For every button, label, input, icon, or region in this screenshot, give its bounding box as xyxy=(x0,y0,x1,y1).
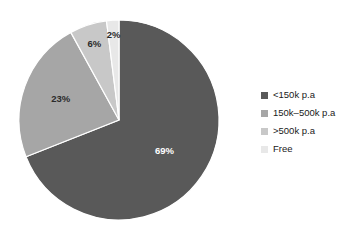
legend-item-150k-500k[interactable]: 150k–500k p.a xyxy=(261,104,349,122)
legend-item-label: <150k p.a xyxy=(273,90,315,100)
pie-slice-label-lt150k: 69% xyxy=(155,145,175,156)
legend-item-label: >500k p.a xyxy=(273,126,315,136)
pie-slice-label-free: 2% xyxy=(107,29,121,40)
legend-swatch-icon xyxy=(261,92,268,99)
legend-swatch-icon xyxy=(261,146,268,153)
pie-slice-label-gt500k: 6% xyxy=(87,38,101,49)
pie-slices xyxy=(19,20,219,220)
pie-slice-label-150k-500k: 23% xyxy=(51,93,71,104)
legend-item-lt150k[interactable]: <150k p.a xyxy=(261,86,349,104)
legend-item-free[interactable]: Free xyxy=(261,140,349,158)
chart-legend: <150k p.a 150k–500k p.a >500k p.a Free xyxy=(261,86,349,158)
legend-swatch-icon xyxy=(261,110,268,117)
legend-swatch-icon xyxy=(261,128,268,135)
pie-chart: 69% 23% 6% 2% <150k p.a 150k–500k p.a >5… xyxy=(0,0,351,241)
legend-item-label: Free xyxy=(273,144,293,154)
legend-item-gt500k[interactable]: >500k p.a xyxy=(261,122,349,140)
legend-item-label: 150k–500k p.a xyxy=(273,108,335,118)
